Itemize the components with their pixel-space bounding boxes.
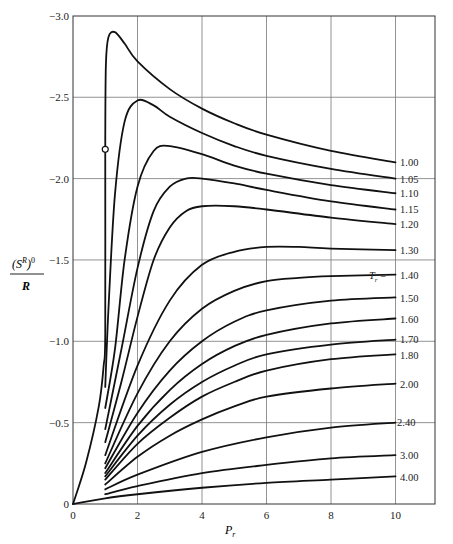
x-tick-label: 0 bbox=[70, 509, 76, 521]
isotherm-curve-1-70 bbox=[105, 340, 395, 477]
curve-label: 1.20 bbox=[400, 219, 418, 230]
curve-label: 1.80 bbox=[400, 350, 418, 361]
x-axis-label: Pr bbox=[224, 523, 236, 539]
y-tick-label: −1.0 bbox=[49, 335, 69, 347]
y-tick-label: 0 bbox=[64, 498, 70, 510]
x-tick-label: 4 bbox=[199, 509, 205, 521]
curve-label: 2.00 bbox=[400, 379, 418, 390]
curve-label: 1.40 bbox=[400, 270, 418, 281]
curve-label: 1.50 bbox=[400, 293, 418, 304]
svg-text:Tr =: Tr = bbox=[369, 270, 386, 284]
isotherm-curve-1-20 bbox=[105, 206, 395, 442]
isotherm-curve-1-00 bbox=[73, 32, 396, 504]
x-tick-label: 2 bbox=[135, 509, 141, 521]
y-tick-label: −1.5 bbox=[49, 254, 69, 266]
y-tick-label: −2.5 bbox=[49, 91, 69, 103]
svg-text:Pr: Pr bbox=[224, 523, 236, 539]
y-tick-label: −3.0 bbox=[49, 10, 69, 22]
curve-label: 2.40 bbox=[397, 417, 415, 428]
y-axis-ticks: 0−0.5−1.0−1.5−2.0−2.5−3.0 bbox=[49, 10, 69, 510]
curve-label: 1.00 bbox=[400, 157, 418, 168]
isotherm-curves bbox=[73, 32, 396, 504]
svg-text:(SR)0: (SR)0 bbox=[12, 256, 35, 271]
svg-text:R: R bbox=[21, 279, 30, 293]
isotherm-curve-3-00 bbox=[105, 455, 395, 494]
y-axis-label: (SR)0 R bbox=[10, 256, 44, 293]
curve-label: 1.15 bbox=[400, 204, 418, 215]
x-tick-label: 8 bbox=[328, 509, 334, 521]
critical-point-marker bbox=[102, 146, 108, 152]
curve-label: 4.00 bbox=[400, 472, 418, 483]
isotherm-curve-1-50 bbox=[105, 297, 395, 468]
y-tick-label: −2.0 bbox=[49, 173, 69, 185]
curve-label: 3.00 bbox=[400, 450, 418, 461]
x-tick-label: 6 bbox=[264, 509, 270, 521]
x-tick-label: 10 bbox=[390, 509, 402, 521]
isotherm-curve-1-05 bbox=[105, 100, 395, 387]
curve-label: 1.30 bbox=[400, 245, 418, 256]
curve-label: 1.10 bbox=[400, 188, 418, 199]
x-axis-ticks: 0246810 bbox=[70, 509, 401, 521]
y-tick-label: −0.5 bbox=[49, 417, 69, 429]
curve-label: 1.70 bbox=[400, 334, 418, 345]
parameter-label: Tr = bbox=[369, 270, 386, 284]
curve-label: 1.60 bbox=[400, 314, 418, 325]
chart: 0246810 0−0.5−1.0−1.5−2.0−2.5−3.0 1.001.… bbox=[0, 0, 453, 544]
curve-label: 1.05 bbox=[400, 174, 418, 185]
isotherm-curve-1-15 bbox=[105, 178, 395, 429]
curve-labels: 1.001.051.101.151.201.301.401.501.601.70… bbox=[397, 157, 418, 483]
